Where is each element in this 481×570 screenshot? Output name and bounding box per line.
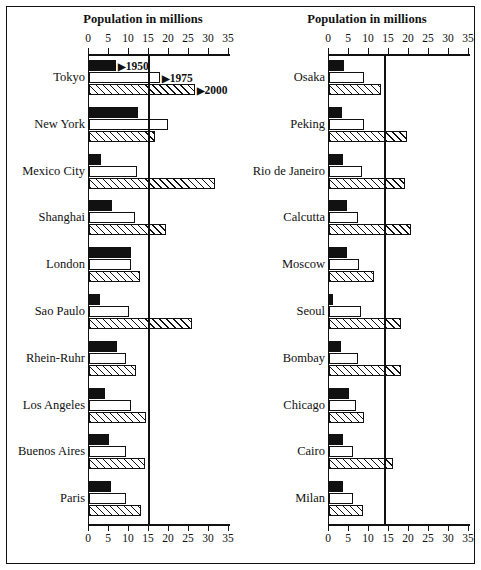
bar-1975 [329,259,359,270]
x-tick-label: 30 [202,32,214,44]
x-tick-label: 35 [222,532,234,544]
bar-group: New York [89,107,228,154]
panel-right-top-ticks [328,48,468,54]
bar-1950 [329,341,341,352]
x-tick-label: 35 [462,32,474,44]
bar-2000 [329,412,364,423]
bar-2000 [89,178,215,189]
x-tick-label: 30 [442,532,454,544]
bar-1975 [329,306,361,317]
bar-1950 [89,247,131,258]
category-label: Calcutta [245,211,325,224]
chart-page: Population in millions 05101520253035 To… [0,0,481,570]
category-label: Paris [11,492,85,505]
x-tick-label: 15 [142,32,154,44]
bar-group: Calcutta [329,200,468,247]
bar-group: London [89,247,228,294]
category-label: Peking [245,118,325,131]
x-tick-label: 5 [345,532,351,544]
category-label: Chicago [245,399,325,412]
x-tick-label: 5 [345,32,351,44]
bar-2000 [89,505,141,516]
bar-2000 [89,458,145,469]
chart-panel-left: Population in millions 05101520253035 To… [8,10,244,560]
bar-group: Paris [89,481,228,528]
bar-2000 [89,224,166,235]
x-tick-label: 15 [382,532,394,544]
bar-group: Rhein-Ruhr [89,341,228,388]
bar-1950 [329,434,343,445]
bar-1975 [89,259,131,270]
category-label: Tokyo [11,71,85,84]
bar-1975 [329,212,358,223]
category-label: London [11,258,85,271]
bar-1975 [89,400,131,411]
panel-right-plot-area: OsakaPekingRio de JaneiroCalcuttaMoscowS… [328,56,468,524]
bar-2000 [329,271,374,282]
bar-1950 [329,60,344,71]
bar-group: Moscow [329,247,468,294]
x-tick-label: 15 [142,532,154,544]
bar-group: Peking [329,107,468,154]
panel-left-top-ticks [88,48,228,54]
bar-group: Cairo [329,434,468,481]
category-label: Rio de Janeiro [245,165,325,178]
panel-left-bottom-axis-labels: 05101520253035 [88,532,238,546]
bar-group: Bombay [329,341,468,388]
bar-1950 [329,294,333,305]
category-label: Milan [245,492,325,505]
bar-2000 [329,224,411,235]
x-tick-label: 20 [402,532,414,544]
x-tick-label: 5 [105,32,111,44]
category-label: Buenos Aires [11,445,85,458]
bar-1975 [329,166,362,177]
bar-1950 [329,388,349,399]
bar-2000 [89,131,155,142]
category-label: Seoul [245,305,325,318]
bar-1950 [89,154,101,165]
bar-1975 [329,493,353,504]
bar-2000 [89,412,146,423]
bar-2000 [89,318,192,329]
bar-1950 [89,294,100,305]
panel-left-top-axis-labels: 05101520253035 [88,32,238,46]
x-tick-label: 5 [105,532,111,544]
bar-1950 [329,200,347,211]
category-label: Shanghai [11,211,85,224]
category-label: Rhein-Ruhr [11,352,85,365]
x-tick-label: 25 [182,532,194,544]
bar-group: Osaka [329,60,468,107]
bar-2000 [89,365,136,376]
bar-2000 [329,131,407,142]
x-tick-label: 25 [422,32,434,44]
bar-1975 [89,212,135,223]
bar-1975 [89,446,126,457]
bar-1950 [329,107,342,118]
bar-1975 [329,446,353,457]
bar-1950 [89,434,109,445]
x-tick-label: 30 [442,32,454,44]
bar-1975 [89,306,129,317]
bar-1950 [89,341,117,352]
bar-2000 [329,318,401,329]
panel-right-top-axis-labels: 05101520253035 [328,32,478,46]
bar-1950 [89,200,112,211]
bar-1975 [329,400,356,411]
x-tick-label: 10 [362,532,374,544]
bar-group: Tokyo▶1950▶1975▶2000 [89,60,228,107]
panel-right-bottom-axis-labels: 05101520253035 [328,532,478,546]
x-tick-label: 30 [202,532,214,544]
bar-group: Rio de Janeiro [329,154,468,201]
category-label: Osaka [245,71,325,84]
legend-marker-2000: ▶2000 [197,85,228,96]
bar-1975 [89,166,137,177]
bar-2000 [329,84,381,95]
bar-group: Los Angeles [89,388,228,435]
category-label: Cairo [245,445,325,458]
x-tick-label: 15 [382,32,394,44]
bar-group: Seoul [329,294,468,341]
bar-1950 [89,481,111,492]
x-tick-label: 0 [85,32,91,44]
category-label: Los Angeles [11,399,85,412]
bar-1950 [329,247,347,258]
